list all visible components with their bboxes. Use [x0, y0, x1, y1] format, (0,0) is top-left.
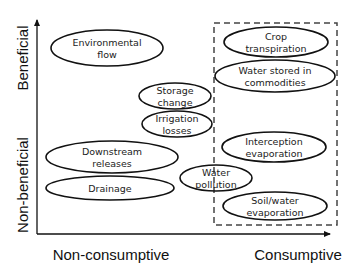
x-axis-label-non-consumptive: Non-consumptive — [53, 246, 170, 263]
node-label: Water — [202, 167, 230, 178]
node-label: pollution — [195, 179, 236, 190]
node-storage-change: Storagechange — [139, 83, 211, 109]
node-water-stored-in-commodities: Water stored incommodities — [215, 60, 335, 92]
node-label: transpiration — [245, 43, 306, 54]
node-label: Crop — [265, 31, 287, 42]
node-label: Drainage — [88, 183, 132, 194]
water-use-diagram: Beneficial Non-beneficial Non-consumptiv… — [0, 0, 359, 270]
water-flow-nodes: EnvironmentalflowCroptranspirationWater … — [46, 27, 335, 220]
node-label: Environmental — [72, 37, 141, 48]
y-axis-label-non-beneficial: Non-beneficial — [14, 137, 31, 233]
node-water-pollution: Waterpollution — [180, 165, 252, 191]
node-drainage: Drainage — [46, 176, 174, 200]
node-label: change — [158, 97, 193, 108]
node-label: Interception — [245, 136, 302, 147]
node-label: Water stored in — [239, 65, 312, 76]
node-label: losses — [162, 125, 191, 136]
node-crop-transpiration: Croptranspiration — [224, 27, 328, 57]
node-downstream-releases: Downstreamreleases — [46, 141, 178, 173]
node-label: commodities — [244, 77, 305, 88]
y-axis-label-beneficial: Beneficial — [14, 25, 31, 90]
x-axis-label-consumptive: Consumptive — [254, 246, 342, 263]
node-irrigation-losses: Irrigationlosses — [142, 111, 212, 137]
node-soil-water-evaporation: Soil/waterevaporation — [223, 192, 327, 220]
node-label: Soil/water — [251, 195, 298, 206]
node-label: Irrigation — [155, 113, 198, 124]
node-label: evaporation — [245, 148, 302, 159]
node-label: Storage — [156, 85, 193, 96]
node-label: evaporation — [246, 207, 303, 218]
node-interception-evaporation: Interceptionevaporation — [222, 132, 326, 162]
node-environmental-flow: Environmentalflow — [51, 30, 163, 66]
node-label: releases — [92, 158, 132, 169]
node-label: flow — [97, 49, 117, 60]
node-label: Downstream — [82, 146, 142, 157]
